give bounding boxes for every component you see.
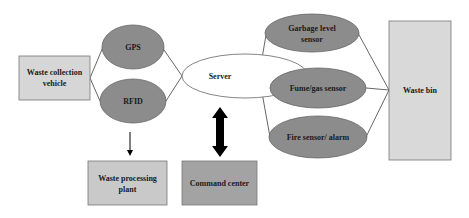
vehicle-label-line2: vehicle <box>43 79 67 88</box>
rfid-label: RFID <box>123 97 143 106</box>
node-waste-processing-plant: Waste processing plant <box>88 161 167 205</box>
node-garbage-level-sensor: Garbage level sensor <box>265 14 359 52</box>
fire-sensor-label: Fire sensor/ alarm <box>287 133 350 142</box>
node-gps: GPS <box>102 25 164 69</box>
iot-waste-management-diagram: Waste collection vehicle GPS RFID Server… <box>0 0 469 218</box>
node-fire-sensor-alarm: Fire sensor/ alarm <box>269 116 367 158</box>
waste-bin-label: Waste bin <box>403 86 438 95</box>
node-rfid: RFID <box>100 79 166 123</box>
processing-plant-label-line2: plant <box>119 185 137 194</box>
node-command-center: Command center <box>182 161 257 205</box>
edge-vehicle-rfid <box>90 78 100 101</box>
command-center-label: Command center <box>190 179 250 188</box>
edge-rfid-server <box>166 76 182 101</box>
gps-label: GPS <box>125 43 141 52</box>
edge-fire-bin <box>366 90 389 137</box>
double-arrow-server-command-center <box>212 107 228 157</box>
node-fume-gas-sensor: Fume/gas sensor <box>270 68 366 108</box>
fume-sensor-label: Fume/gas sensor <box>290 84 347 93</box>
garbage-sensor-label-line2: sensor <box>301 35 323 44</box>
garbage-sensor-label-line1: Garbage level <box>288 24 336 33</box>
edge-fume-bin <box>366 88 389 90</box>
server-label: Server <box>209 72 232 81</box>
vehicle-label-line1: Waste collection <box>27 68 83 77</box>
processing-plant-label-line1: Waste processing <box>98 174 157 183</box>
edge-vehicle-gps <box>90 47 103 78</box>
edge-gps-server <box>162 47 182 76</box>
node-waste-bin: Waste bin <box>389 21 451 160</box>
node-waste-collection-vehicle: Waste collection vehicle <box>19 56 90 100</box>
